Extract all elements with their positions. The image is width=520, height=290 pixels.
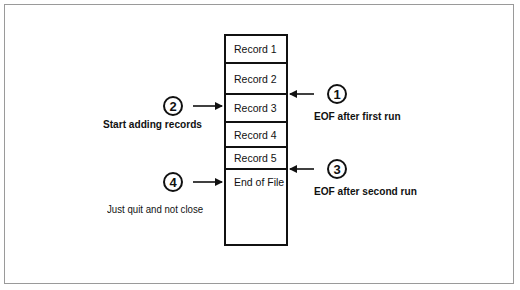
annotation-4-label: Just quit and not close xyxy=(107,203,203,215)
step-4-circle-icon: 4 xyxy=(163,172,183,192)
step-number: 4 xyxy=(169,175,176,190)
annotation-2-label: Start adding records xyxy=(103,118,202,130)
step-number: 3 xyxy=(333,162,340,177)
step-2-circle-icon: 2 xyxy=(163,96,183,116)
annotation-1-label: EOF after first run xyxy=(314,110,401,122)
step-1-circle-icon: 1 xyxy=(327,84,347,104)
step-number: 1 xyxy=(333,87,340,102)
annotation-3-label: EOF after second run xyxy=(314,185,417,197)
arrows-layer xyxy=(0,0,520,290)
step-3-circle-icon: 3 xyxy=(327,159,347,179)
step-number: 2 xyxy=(169,99,176,114)
